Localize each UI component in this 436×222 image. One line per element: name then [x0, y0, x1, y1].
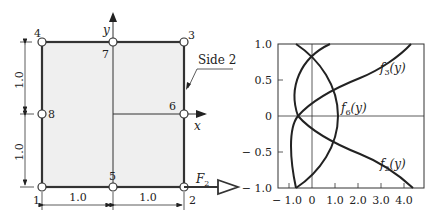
dim-horizontal-right-label: 1.0 [139, 191, 157, 204]
node-6 [180, 110, 188, 118]
node-7 [109, 38, 117, 46]
x-tick-label: 3.0 [372, 194, 390, 207]
force-label: F2 [195, 172, 209, 188]
force-arrow-icon [218, 180, 238, 194]
x-tick-label: 1.0 [326, 194, 344, 207]
x-tick-label: 0 [309, 194, 316, 207]
node-label-1: 1 [33, 194, 40, 207]
node-label-7: 7 [102, 48, 109, 61]
label-f3: f3(y) [379, 61, 406, 77]
x-axis-arrow-icon [196, 110, 207, 118]
node-label-2: 2 [189, 194, 196, 207]
shape-function-chart: 1.0 0.5 0 − 0.5 − 1.0 − 1.0 0 1.0 2.0 3.… [242, 38, 424, 207]
node-label-6: 6 [169, 100, 176, 113]
x-tick-label: 2.0 [349, 194, 367, 207]
figure: y x 1 2 3 4 5 6 7 8 Side 2 F2 [0, 0, 436, 222]
x-ticks [289, 183, 404, 188]
y-tick-label: 0.5 [255, 74, 273, 87]
y-tick-label: 0 [265, 110, 272, 123]
node-3 [180, 38, 188, 46]
node-label-3: 3 [188, 29, 195, 42]
node-label-8: 8 [48, 108, 55, 121]
node-5 [109, 183, 117, 191]
node-label-4: 4 [34, 27, 41, 40]
dim-horizontal-left-label: 1.0 [69, 191, 87, 204]
y-tick-label: 1.0 [255, 38, 273, 51]
x-tick-label: 4.0 [395, 194, 413, 207]
node-label-5: 5 [109, 170, 116, 183]
label-f6: f6(y) [340, 101, 367, 117]
y-tick-label: − 0.5 [242, 146, 272, 159]
node-8 [38, 110, 46, 118]
dim-vertical-bottom-label: 1.0 [13, 143, 26, 161]
node-1 [38, 183, 46, 191]
y-axis-label: y [102, 23, 110, 37]
x-tick-label: − 1.0 [272, 194, 302, 207]
label-f2: f2(y) [379, 157, 406, 173]
dim-vertical-top-label: 1.0 [13, 71, 26, 89]
element-diagram: y x 1 2 3 4 5 6 7 8 Side 2 F2 [13, 12, 238, 210]
x-axis-label: x [194, 119, 201, 133]
y-tick-label: − 1.0 [242, 182, 272, 195]
y-axis-arrow-icon [109, 12, 117, 22]
side-2-label: Side 2 [198, 53, 236, 67]
